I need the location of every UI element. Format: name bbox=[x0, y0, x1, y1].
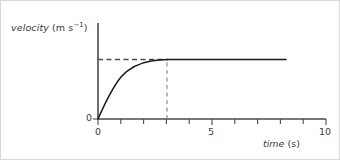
y-tick-label-0: 0 bbox=[86, 113, 92, 123]
x-tick-label-10: 10 bbox=[319, 127, 331, 137]
x-tick-label-0: 0 bbox=[95, 127, 101, 137]
velocity-curve bbox=[98, 60, 286, 120]
x-axis-ticks bbox=[98, 119, 326, 125]
velocity-time-graph-figure: velocity (m s−1) time (s) 0 0 5 10 bbox=[0, 0, 340, 160]
x-tick-label-5: 5 bbox=[208, 127, 214, 137]
y-axis-label: velocity (m s−1) bbox=[11, 23, 87, 33]
x-axis-label: time (s) bbox=[263, 139, 300, 149]
